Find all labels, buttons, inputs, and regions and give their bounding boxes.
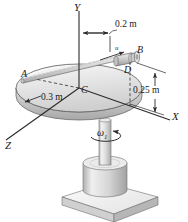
height-dimension-label: 0.25 m	[133, 86, 159, 96]
figure-drawing	[0, 0, 188, 222]
point-c-label: C	[81, 85, 88, 95]
offset-dimension	[83, 30, 117, 52]
point-b-label: B	[137, 45, 143, 55]
mechanics-figure: Y X Z A B C D 0.2 m 0.3 m 0.25 m u ω1	[0, 0, 188, 222]
point-a-label: A	[21, 69, 27, 79]
omega-symbol: ω	[97, 127, 104, 138]
radius-dimension-label: 0.3 m	[41, 93, 63, 103]
point-d-label: D	[124, 65, 131, 75]
velocity-label: u	[115, 45, 119, 52]
z-axis-label: Z	[5, 140, 11, 151]
omega-subscript: 1	[104, 133, 107, 140]
angular-velocity-label: ω1	[97, 128, 107, 141]
x-axis-label: X	[172, 111, 179, 122]
y-axis-label: Y	[74, 2, 80, 13]
offset-dimension-label: 0.2 m	[115, 20, 137, 30]
